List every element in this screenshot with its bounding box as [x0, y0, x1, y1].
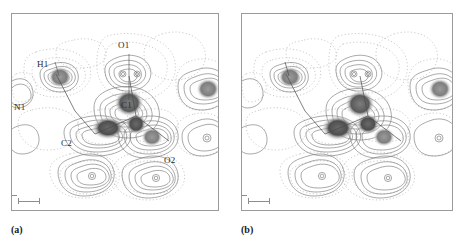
panel-caption-b: (b)	[241, 224, 253, 235]
contour-svg-b	[242, 14, 452, 210]
scale-bar-a	[18, 198, 40, 204]
atom-label-o1: O1	[118, 40, 129, 50]
atom-label-c2: C2	[61, 138, 72, 148]
contour-svg-a	[12, 14, 218, 210]
atom-label-n1: N1	[14, 102, 25, 112]
atom-cores-b	[278, 66, 452, 147]
axis-tick-a	[12, 195, 17, 196]
negative-contours-b	[242, 32, 452, 200]
axis-tick-b	[242, 195, 247, 196]
scale-bar-line	[248, 201, 270, 202]
contour-panel-a: H1 N1 C2 C1 O1 O2	[11, 13, 219, 211]
atom-label-o2: O2	[164, 155, 175, 165]
scale-bar-b	[248, 198, 270, 204]
atom-label-c1: C1	[121, 100, 132, 110]
atom-label-h1: H1	[37, 59, 48, 69]
panel-caption-a: (a)	[11, 224, 23, 235]
negative-contours-a	[12, 32, 218, 200]
contour-panel-b	[241, 13, 453, 211]
contour-plot-a: H1 N1 C2 C1 O1 O2	[12, 14, 218, 210]
contour-plot-b	[242, 14, 452, 210]
scale-bar-line	[18, 201, 40, 202]
scale-bar-tick-right	[39, 198, 40, 204]
scale-bar-tick-right	[269, 198, 270, 204]
figure-container: H1 N1 C2 C1 O1 O2	[0, 0, 463, 246]
